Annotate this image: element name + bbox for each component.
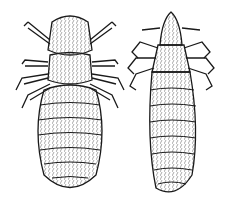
left-louse [16, 16, 124, 188]
lice-illustration [0, 0, 240, 222]
right-louse [128, 12, 214, 192]
illustration-canvas [0, 0, 240, 222]
